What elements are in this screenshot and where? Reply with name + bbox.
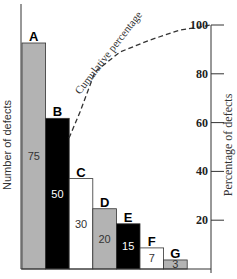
bar-value-label: 30 bbox=[75, 218, 87, 230]
bar-value-label: 3 bbox=[172, 258, 178, 270]
y-axis-label: Number of defects bbox=[1, 100, 13, 190]
bar-category-label: E bbox=[124, 210, 133, 225]
cumulative-percentage-annotation: Cumulative percentage bbox=[72, 9, 144, 97]
bar-value-label: 7 bbox=[149, 252, 155, 264]
bar-category-label: F bbox=[148, 234, 156, 249]
bar-value-label: 15 bbox=[122, 240, 134, 252]
bar-value-label: 50 bbox=[51, 188, 63, 200]
y2-axis-label: Percentage of defects bbox=[221, 93, 235, 196]
y2-tick-label: 60 bbox=[196, 116, 208, 130]
bar-category-label: B bbox=[53, 104, 62, 119]
bar-value-label: 75 bbox=[28, 150, 40, 162]
bar-category-label: D bbox=[100, 195, 109, 210]
y2-tick-label: 20 bbox=[196, 213, 208, 227]
y2-tick-label: 80 bbox=[196, 67, 208, 81]
bar-category-label: A bbox=[29, 29, 39, 44]
pareto-chart: A75B50C30D20E15F7G3 20406080100 Number o… bbox=[0, 0, 237, 279]
y2-tick-label: 100 bbox=[190, 18, 208, 32]
y2-tick-label: 40 bbox=[196, 164, 208, 178]
bar-category-label: C bbox=[76, 165, 86, 180]
bar-value-label: 20 bbox=[98, 233, 110, 245]
right-axis-ticks: 20406080100 bbox=[190, 18, 224, 227]
